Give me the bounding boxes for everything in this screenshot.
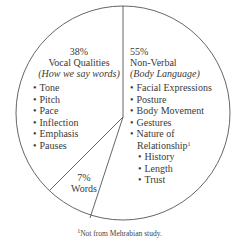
nonverbal-title: Non-Verbal — [130, 57, 177, 68]
list-item: Body Movement — [130, 105, 212, 117]
footnote-marker: 1 — [77, 228, 80, 234]
footnote-text: Not from Mehrabian study. — [80, 229, 162, 238]
list-item: Gestures — [130, 117, 212, 129]
list-item: Tone — [33, 82, 78, 94]
list-item: Trust — [130, 174, 175, 186]
list-item: Pace — [33, 105, 78, 117]
footnote-marker: 1 — [188, 141, 191, 147]
vocal-pct: 38% — [40, 46, 118, 57]
list-item: Posture — [130, 94, 212, 106]
list-item-continued: Relationship1 — [130, 140, 212, 152]
nonverbal-pct: 55% — [130, 46, 148, 57]
vocal-title: Vocal Qualities — [30, 57, 128, 68]
words-pct: 7% — [66, 172, 102, 183]
list-item: Emphasis — [33, 128, 78, 140]
list-item: Pauses — [33, 140, 78, 152]
vocal-list: Tone Pitch Pace Inflection Emphasis Paus… — [33, 82, 78, 151]
nonverbal-subtitle: (Body Language) — [130, 68, 200, 79]
footnote: 1Not from Mehrabian study. — [0, 229, 239, 238]
list-item: Pitch — [33, 94, 78, 106]
list-item: Nature of — [130, 128, 212, 140]
nonverbal-list: Facial Expressions Posture Body Movement… — [130, 82, 212, 151]
list-item: Inflection — [33, 117, 78, 129]
list-item: Facial Expressions — [130, 82, 212, 94]
vocal-subtitle: (How we say words) — [28, 68, 130, 79]
words-title: Words — [60, 183, 108, 194]
relationship-label: Relationship — [137, 140, 188, 151]
nonverbal-sublist: History Length Trust — [130, 151, 175, 186]
list-item: History — [130, 151, 175, 163]
list-item: Length — [130, 163, 175, 175]
